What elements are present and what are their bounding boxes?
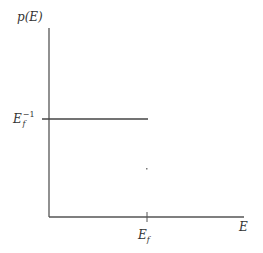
y-tick-label: E−1f xyxy=(13,110,26,128)
x-tick-main: E xyxy=(138,228,147,242)
chart: p(E) E−1f Ef E xyxy=(0,0,263,253)
stray-dot xyxy=(146,168,148,170)
y-tick-main: E xyxy=(13,112,22,126)
x-axis-label: E xyxy=(239,220,248,234)
x-tick-label: Ef xyxy=(138,228,150,244)
y-tick-sub: f xyxy=(23,119,26,128)
y-tick-sup: −1 xyxy=(23,110,35,119)
y-axis-label: p(E) xyxy=(17,10,43,24)
plot-area xyxy=(0,0,263,253)
x-tick-sub: f xyxy=(147,235,150,244)
